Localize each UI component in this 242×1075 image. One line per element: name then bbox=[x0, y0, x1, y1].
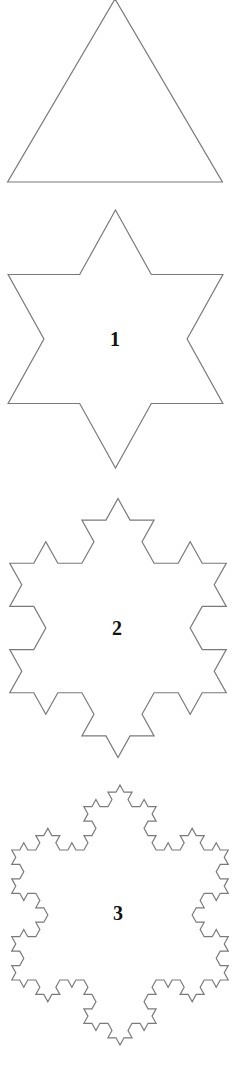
label-iteration-2: 2 bbox=[112, 618, 122, 638]
label-iteration-1: 1 bbox=[110, 329, 120, 349]
label-iteration-3: 3 bbox=[113, 903, 123, 923]
koch-iteration-0 bbox=[8, 0, 223, 182]
